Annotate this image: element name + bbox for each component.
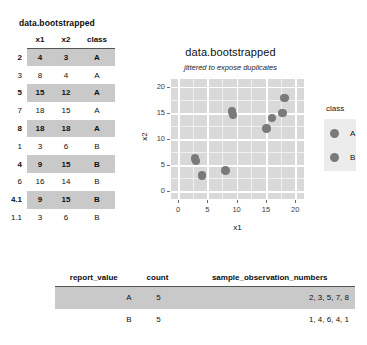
top-th-x1: x1 [27,31,53,46]
cell-x1: 9 [27,155,53,173]
table-row: 6 16 14 B [0,173,115,191]
summary-table-head: report_value count sample_observation_nu… [55,270,355,287]
cell-class: A [79,84,115,102]
grid-line-h [171,87,304,89]
grid-line-h [171,165,304,167]
data-point [221,166,230,175]
cell-report-value: B [55,309,133,331]
cell-x1: 9 [27,191,53,209]
table-row: 4.1 9 15 B [0,191,115,209]
x-axis-title: x1 [171,223,304,232]
x-tick-label: 20 [285,205,305,214]
grid-line-h [171,139,304,141]
cell-x2: 12 [53,84,79,102]
cell-x2: 15 [53,191,79,209]
top-th-class: class [79,31,115,46]
table-row: 1 3 6 B [0,137,115,155]
cell-class: A [79,49,115,67]
cell-class: B [79,173,115,191]
cell-rowname: 4 [0,155,27,173]
table-row: 1.1 3 6 B [0,209,115,227]
cell-x2: 3 [53,49,79,67]
cell-x2: 18 [53,120,79,138]
cell-class: A [79,66,115,84]
data-point [262,124,271,133]
cell-x1: 16 [27,173,53,191]
cell-x1: 8 [27,66,53,84]
cell-rowname: 1 [0,137,27,155]
cell-class: A [79,102,115,120]
cell-x2: 6 [53,209,79,227]
cell-rowname: 3 [0,66,27,84]
y-tick-mark [167,87,170,88]
table-row: 2 4 3 A [0,49,115,67]
table-row: 5 15 12 A [0,84,115,102]
table-row: 7 18 15 A [0,102,115,120]
top-data-frame: data.bootstrapped x1 x2 class 2 4 3 A [0,18,150,226]
legend-item-a[interactable]: A [325,121,355,145]
y-tick-label: 5 [145,160,165,169]
cell-x2: 6 [53,137,79,155]
scatter-chart: data.bootstrapped jittered to expose dup… [138,46,367,246]
cell-rowname: 5 [0,84,27,102]
cell-sample-observation-numbers: 1, 4, 6, 4, 1 [184,309,355,331]
table-row: B 5 1, 4, 6, 4, 1 [55,309,355,331]
grid-line-h [171,191,304,193]
x-tick-mark [295,200,296,203]
cell-class: B [79,209,115,227]
x-tick-mark [207,200,208,203]
data-point [198,171,207,180]
cell-class: A [79,120,115,138]
cell-class: B [79,155,115,173]
cell-x1: 15 [27,84,53,102]
legend-item-b[interactable]: B [325,145,355,169]
th-sample-observation-numbers: sample_observation_numbers [184,270,355,284]
cell-sample-observation-numbers: 2, 3, 5, 7, 8 [184,287,355,309]
data-point [280,94,289,103]
cell-rowname: 7 [0,102,27,120]
table-row: 8 18 18 A [0,120,115,138]
top-table-body: 2 4 3 A 3 8 4 A 5 15 12 A 7 18 15 A [0,49,115,227]
cell-x1: 18 [27,102,53,120]
y-tick-mark [167,165,170,166]
y-axis-title: x2 [140,125,149,149]
cell-x1: 3 [27,137,53,155]
y-tick-label: 15 [145,108,165,117]
cell-report-value: A [55,287,133,309]
top-table-caption: data.bootstrapped [19,18,150,28]
x-tick-mark [178,200,179,203]
top-th-x2: x2 [53,31,79,46]
summary-header-row: report_value count sample_observation_nu… [55,270,355,284]
y-tick-mark [167,139,170,140]
x-tick-label: 10 [227,205,247,214]
cell-rowname: 8 [0,120,27,138]
y-tick-mark [167,191,170,192]
top-table-header-row: x1 x2 class [0,31,115,46]
data-point [278,109,287,118]
x-tick-mark [266,200,267,203]
y-tick-label: 0 [145,186,165,195]
th-count: count [133,270,185,284]
x-tick-label: 15 [256,205,276,214]
chart-panel [171,79,304,199]
chart-subtitle: jittered to expose duplicates [138,63,323,72]
summary-table-wrap: report_value count sample_observation_nu… [55,270,355,331]
cell-count: 5 [133,309,185,331]
data-point [192,157,201,166]
cell-rowname: 2 [0,49,27,67]
summary-table: report_value count sample_observation_nu… [55,270,355,331]
legend-keys: A B [324,119,356,171]
cell-x2: 15 [53,155,79,173]
top-table-head: x1 x2 class [0,31,115,49]
th-report-value: report_value [55,270,133,284]
cell-x1: 18 [27,120,53,138]
table-row: A 5 2, 3, 5, 7, 8 [55,287,355,309]
x-tick-label: 5 [197,205,217,214]
legend-label: B [350,153,355,162]
data-point [268,114,277,123]
x-tick-mark [237,200,238,203]
summary-table-body: A 5 2, 3, 5, 7, 8 B 5 1, 4, 6, 4, 1 [55,287,355,331]
cell-x2: 15 [53,102,79,120]
chart-title: data.bootstrapped [138,46,323,58]
cell-rowname: 1.1 [0,209,27,227]
